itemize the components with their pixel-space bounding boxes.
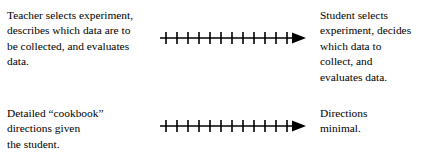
continuum-arrow-top (158, 26, 308, 50)
continuum-figure: Teacher selects experiment, describes wh… (0, 0, 434, 164)
row-bottom-right-label: Directions minimal. (320, 106, 434, 137)
continuum-arrow-bottom (158, 114, 308, 138)
continuum-row-top: Teacher selects experiment, describes wh… (0, 8, 434, 90)
arrow-bottom-graphic (158, 114, 308, 138)
arrow-top-graphic (158, 26, 308, 50)
row-top-left-label: Teacher selects experiment, describes wh… (7, 8, 157, 70)
row-bottom-left-label: Detailed “cookbook” directions given the… (7, 106, 157, 152)
continuum-row-bottom: Detailed “cookbook” directions given the… (0, 106, 434, 164)
row-top-right-label: Student selects experiment, decides whic… (320, 8, 434, 85)
